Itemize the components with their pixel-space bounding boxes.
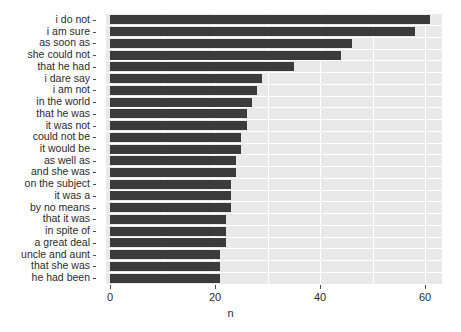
x-axis-tick-label: 60 <box>405 291 445 303</box>
bar <box>110 250 220 259</box>
gridline-horizontal <box>106 96 442 97</box>
gridline-horizontal <box>106 143 442 144</box>
bar <box>110 156 236 165</box>
bar <box>110 227 226 236</box>
y-axis-tick-mark <box>93 67 96 68</box>
gridline-horizontal <box>106 213 442 214</box>
y-axis-tick-mark <box>93 243 96 244</box>
gridline-horizontal <box>106 248 442 249</box>
gridline-horizontal <box>106 237 442 238</box>
gridline-horizontal <box>106 84 442 85</box>
y-axis-tick-label: he had been <box>32 272 90 283</box>
bar <box>110 180 231 189</box>
bar <box>110 27 415 36</box>
gridline-horizontal <box>106 260 442 261</box>
y-axis-tick-label: uncle and aunt <box>21 249 90 260</box>
gridline-horizontal <box>106 225 442 226</box>
gridline-horizontal <box>106 107 442 108</box>
y-axis-tick-label: it was not <box>46 120 90 131</box>
y-axis-tick-label: that he was <box>36 108 90 119</box>
bar <box>110 215 226 224</box>
y-axis-tick-label: i am sure <box>47 26 90 37</box>
y-axis-tick-label: it was a <box>54 190 90 201</box>
gridline-vertical <box>425 14 426 284</box>
bar <box>110 51 341 60</box>
bar <box>110 15 430 24</box>
bar <box>110 262 220 271</box>
y-axis-tick-mark <box>93 231 96 232</box>
bar <box>110 145 241 154</box>
gridline-horizontal <box>106 201 442 202</box>
y-axis-tick-mark <box>93 255 96 256</box>
y-axis-tick-mark <box>93 79 96 80</box>
gridline-horizontal <box>106 119 442 120</box>
gridline-horizontal <box>106 72 442 73</box>
bar <box>110 39 352 48</box>
y-axis-tick-mark <box>93 266 96 267</box>
gridline-horizontal <box>106 25 442 26</box>
y-axis-tick-label: and she was <box>31 166 90 177</box>
gridline-horizontal <box>106 178 442 179</box>
y-axis-tick-mark <box>93 102 96 103</box>
y-axis-tick-mark <box>93 20 96 21</box>
plot-panel <box>106 14 442 284</box>
bar <box>110 109 247 118</box>
y-axis-tick-mark <box>93 90 96 91</box>
bar <box>110 62 294 71</box>
bar-chart: i do noti am sureas soon asshe could not… <box>0 0 461 332</box>
x-axis-tick-mark <box>425 285 426 289</box>
x-axis-tick-label: 40 <box>300 291 340 303</box>
y-axis-tick-mark <box>93 172 96 173</box>
y-axis-tick-label: that he had <box>37 61 90 72</box>
y-axis-tick-label: on the subject <box>25 178 90 189</box>
gridline-horizontal <box>106 49 442 50</box>
y-axis-tick-mark <box>93 278 96 279</box>
bar <box>110 191 231 200</box>
y-axis-tick-mark <box>93 55 96 56</box>
y-axis-label-group: i do noti am sureas soon asshe could not… <box>0 14 98 284</box>
y-axis-tick-mark <box>93 114 96 115</box>
y-axis-tick-label: that it was <box>43 213 90 224</box>
y-axis-tick-label: that she was <box>31 260 90 271</box>
y-axis-tick-label: i am not <box>53 84 90 95</box>
y-axis-tick-label: by no means <box>30 202 90 213</box>
y-axis-tick-label: i dare say <box>44 73 90 84</box>
bar <box>110 74 262 83</box>
y-axis-tick-mark <box>93 219 96 220</box>
x-axis-tick-label: 20 <box>195 291 235 303</box>
bar <box>110 133 241 142</box>
y-axis-tick-label: in spite of <box>45 225 90 236</box>
gridline-horizontal <box>106 154 442 155</box>
gridline-vertical <box>373 14 374 284</box>
y-axis-tick-mark <box>93 208 96 209</box>
y-axis-tick-label: a great deal <box>35 237 90 248</box>
x-axis-tick-mark <box>215 285 216 289</box>
x-axis-tick-mark <box>320 285 321 289</box>
gridline-horizontal <box>106 131 442 132</box>
y-axis-tick-label: i do not <box>56 14 90 25</box>
gridline-horizontal <box>106 190 442 191</box>
y-axis-tick-label: as well as <box>44 155 90 166</box>
gridline-horizontal <box>106 272 442 273</box>
y-axis-tick-mark <box>93 137 96 138</box>
y-axis-tick-mark <box>93 161 96 162</box>
bar <box>110 238 226 247</box>
y-axis-tick-mark <box>93 196 96 197</box>
x-axis-tick-mark <box>110 285 111 289</box>
bar <box>110 98 252 107</box>
y-axis-tick-mark <box>93 184 96 185</box>
x-axis-title: n <box>0 307 461 319</box>
y-axis-tick-mark <box>93 32 96 33</box>
bar <box>110 274 220 283</box>
y-axis-tick-label: as soon as <box>39 37 90 48</box>
y-axis-tick-label: it would be <box>40 143 90 154</box>
y-axis-tick-mark <box>93 149 96 150</box>
bar <box>110 121 247 130</box>
bar <box>110 168 236 177</box>
x-axis-tick-label: 0 <box>90 291 130 303</box>
y-axis-tick-label: could not be <box>33 131 90 142</box>
gridline-horizontal <box>106 166 442 167</box>
gridline-horizontal <box>106 60 442 61</box>
gridline-horizontal <box>106 37 442 38</box>
y-axis-tick-mark <box>93 126 96 127</box>
